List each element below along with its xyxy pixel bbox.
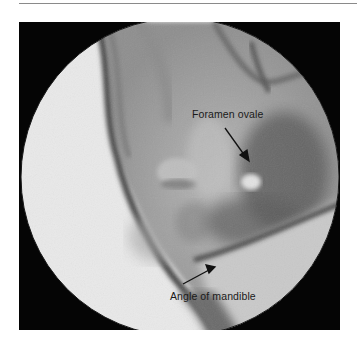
label-angle-of-mandible: Angle of mandible (170, 290, 256, 302)
image-frame: Foramen ovale Angle of mandible (19, 22, 340, 330)
top-rule (19, 3, 357, 4)
label-foramen-ovale: Foramen ovale (192, 108, 263, 120)
fluoroscopy-image (19, 22, 340, 330)
